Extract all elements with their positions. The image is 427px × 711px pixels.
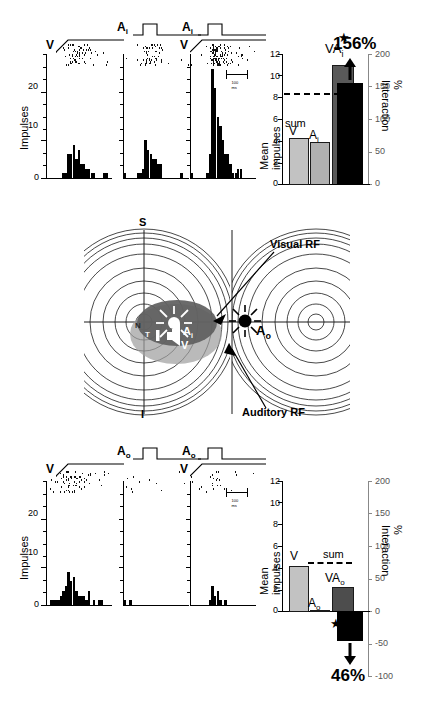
raster-spike (108, 473, 109, 475)
interaction-tick-bot-150: 150 (375, 508, 390, 518)
raster-spike (82, 473, 83, 475)
diagram-label-superior: S (139, 216, 146, 228)
raster-spike (81, 47, 82, 49)
raster-spike (210, 58, 211, 60)
raster-spike (71, 478, 72, 480)
ytick-top-bc-6: 6 (273, 114, 278, 124)
raster-spike (156, 483, 157, 485)
raster-spike (99, 479, 100, 481)
histogram-bars-ao-bottom (124, 482, 188, 605)
raster-spike (103, 52, 104, 54)
raster-spike (145, 64, 146, 66)
raster-spike (101, 485, 102, 487)
raster-spike (65, 56, 66, 58)
raster-spike (90, 474, 91, 476)
raster-spike (224, 63, 225, 65)
raster-spike (64, 491, 65, 493)
raster-spike (206, 46, 207, 48)
raster-spike (236, 52, 237, 54)
raster-spike (70, 61, 71, 63)
ytick-bot-0: 0 (34, 599, 39, 609)
bar-ai-top (310, 142, 330, 185)
ytick-bot-bc-8: 8 (273, 519, 278, 529)
histogram-bin (160, 164, 162, 178)
stimulus-trace-ao-bot3 (198, 446, 268, 462)
diagram-label-visual-rf: Visual RF (270, 238, 320, 250)
raster-spike (217, 47, 218, 49)
bar-label-vao-bottom: VAo (325, 571, 345, 587)
raster-spike (93, 64, 94, 66)
raster-spike (79, 49, 80, 51)
ytick-top-10: 10 (28, 120, 38, 130)
raster-spike (82, 52, 83, 54)
bar-vao-bottom (332, 587, 354, 612)
bar-label-ai-top: Ai (309, 128, 319, 144)
histogram-bin (191, 173, 193, 178)
interaction-value-bottom: 46% (331, 666, 365, 686)
ytick-top-bc-2: 2 (273, 157, 278, 167)
raster-spike (146, 63, 147, 65)
sum-label-top: sum (285, 117, 306, 129)
raster-spike (199, 488, 200, 490)
raster-spike (71, 63, 72, 65)
raster-spike (91, 52, 92, 54)
raster-spike (161, 61, 162, 63)
raster-spike (162, 49, 163, 51)
diagram-label-inferior: I (141, 408, 144, 420)
raster-spike (192, 481, 193, 483)
raster-spike (84, 481, 85, 483)
raster-spike (152, 47, 153, 49)
interaction-value-top: 156% (333, 34, 376, 54)
raster-spike (213, 478, 214, 480)
ytick-top-bc-10: 10 (270, 71, 280, 81)
arrow-down-icon-bottom (342, 643, 358, 665)
raster-plot-vai-top (191, 42, 255, 64)
raster-spike (76, 485, 77, 487)
raster-spike (156, 51, 157, 53)
raster-spike (235, 471, 236, 473)
raster-spike (219, 479, 220, 481)
ytick-bot-10: 10 (28, 547, 38, 557)
raster-spike (82, 58, 83, 60)
raster-spike (88, 49, 89, 51)
raster-spike (201, 54, 202, 56)
raster-spike (218, 471, 219, 473)
raster-spike (216, 59, 217, 61)
raster-spike (220, 64, 221, 66)
raster-plot-v-bottom (47, 469, 111, 491)
raster-spike (249, 46, 250, 48)
raster-spike (79, 481, 80, 483)
histogram-bin (240, 169, 242, 178)
raster-spike (147, 54, 148, 56)
ytick-bot-bc-10: 10 (270, 498, 280, 508)
raster-spike (215, 46, 216, 48)
raster-spike (79, 486, 80, 488)
raster-spike (214, 63, 215, 65)
raster-spike (228, 47, 229, 49)
raster-spike (140, 64, 141, 66)
diagram-label-nasal: N (135, 321, 141, 330)
interaction-tick-top-200: 200 (375, 49, 390, 59)
raster-spike (213, 488, 214, 490)
raster-spike (95, 51, 96, 53)
raster-spike (157, 44, 158, 46)
raster-spike (227, 54, 228, 56)
ytick-bot-bc-12: 12 (270, 476, 280, 486)
raster-spike (143, 59, 144, 61)
ytick-top-bc-0: 0 (273, 178, 278, 188)
raster-spike (191, 476, 192, 478)
raster-spike (83, 49, 84, 51)
raster-spike (51, 479, 52, 481)
raster-spike (236, 474, 237, 476)
raster-spike (131, 488, 132, 490)
diagram-label-auditory-rf: Auditory RF (242, 406, 305, 418)
raster-spike (212, 474, 213, 476)
raster-spike (79, 476, 80, 478)
raster-spike (68, 479, 69, 481)
raster-spike (63, 474, 64, 476)
ytick-bot-20: 20 (28, 508, 38, 518)
raster-spike (148, 51, 149, 53)
histogram-bin (88, 591, 90, 605)
histogram-bin (124, 173, 126, 178)
raster-spike (137, 44, 138, 46)
